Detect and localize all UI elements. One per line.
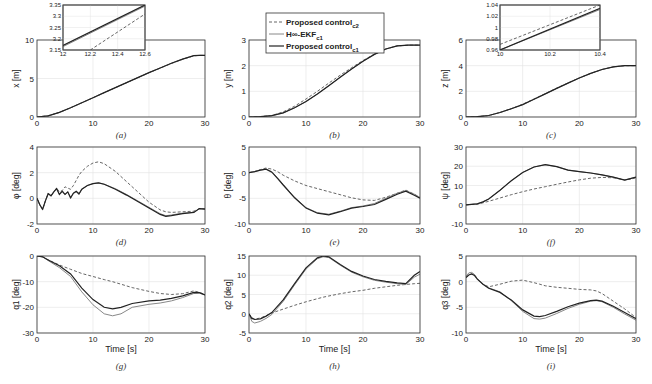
x-tick-label: 10 xyxy=(302,335,311,344)
y-tick-label: 4 xyxy=(30,143,35,152)
x-tick-label: 30 xyxy=(632,226,641,235)
x-axis-label: Time [s] xyxy=(105,344,137,354)
series-solid xyxy=(37,183,205,216)
y-tick-label: 10 xyxy=(237,271,246,280)
y-tick-label: -2 xyxy=(27,220,35,229)
subplot-caption: (i) xyxy=(547,361,556,371)
y-tick-label: -30 xyxy=(22,329,34,338)
subplot-caption: (a) xyxy=(116,130,127,140)
inset-y-tick: 1.04 xyxy=(486,2,498,8)
subplot-g: 0102030-30-20-100q1 [deg]Time [s](g) xyxy=(11,252,210,371)
x-tick-label: 20 xyxy=(145,335,154,344)
x-tick-label: 0 xyxy=(464,335,469,344)
x-axis-label: Time [s] xyxy=(319,344,351,354)
y-tick-label: 0 xyxy=(459,113,464,122)
subplot-caption: (c) xyxy=(546,130,556,140)
series-dashed xyxy=(466,177,636,204)
x-tick-label: 30 xyxy=(416,119,425,128)
y-tick-label: 5 xyxy=(242,143,247,152)
x-axis-label: Time [s] xyxy=(535,344,567,354)
x-tick-label: 30 xyxy=(632,119,641,128)
inset-y-tick: 1.02 xyxy=(486,13,498,19)
x-tick-label: 0 xyxy=(464,226,469,235)
inset-x-tick: 12.4 xyxy=(112,51,124,57)
x-tick-label: 0 xyxy=(35,226,40,235)
y-tick-label: 0 xyxy=(30,113,35,122)
inset-y-tick: 1 xyxy=(495,25,499,31)
x-tick-label: 10 xyxy=(89,226,98,235)
y-axis-label: z [m] xyxy=(440,69,450,87)
inset-x-tick: 10.4 xyxy=(594,51,606,57)
y-tick-label: 0 xyxy=(30,252,35,261)
x-tick-label: 0 xyxy=(35,119,40,128)
y-axis-label: ψ [deg] xyxy=(440,172,450,199)
inset-x-tick: 12.2 xyxy=(84,51,96,57)
subplot-caption: (b) xyxy=(329,130,340,140)
series-dashed xyxy=(37,162,205,213)
x-tick-label: 30 xyxy=(201,226,210,235)
series-thin xyxy=(37,183,205,216)
y-axis-label: x [m] xyxy=(11,69,21,87)
x-tick-label: 0 xyxy=(464,119,469,128)
x-tick-label: 10 xyxy=(518,335,527,344)
x-tick-label: 0 xyxy=(247,119,252,128)
x-tick-label: 10 xyxy=(302,226,311,235)
subplot-caption: (g) xyxy=(116,361,127,371)
x-tick-label: 20 xyxy=(575,226,584,235)
series-dashed xyxy=(466,274,636,318)
subplot-caption: (h) xyxy=(329,361,340,371)
y-tick-label: -5 xyxy=(239,194,247,203)
y-tick-label: 0 xyxy=(459,278,464,287)
subplot-h: 0102030-5051015q2 [deg]Time [s](h) xyxy=(223,252,425,371)
series-solid xyxy=(466,165,636,205)
series-thin xyxy=(37,55,205,117)
subplot-c: 01020300246z [m](c)1010.210.40.960.9811.… xyxy=(440,2,641,140)
y-tick-label: 2 xyxy=(459,87,464,96)
figure-canvas: 01020300510x [m](a)1212.212.412.63.153.2… xyxy=(0,0,652,384)
x-tick-label: 10 xyxy=(302,119,311,128)
y-axis-label: q1 [deg] xyxy=(11,279,21,310)
subplot-caption: (f) xyxy=(547,237,556,247)
inset-zoom-a: 1212.212.412.63.153.23.253.33.35 xyxy=(49,2,151,57)
y-tick-label: 30 xyxy=(454,143,463,152)
y-tick-label: 2 xyxy=(30,169,35,178)
inset-x-tick: 10.2 xyxy=(544,51,556,57)
y-axis-label: θ [deg] xyxy=(223,173,233,199)
y-tick-label: -10 xyxy=(451,329,463,338)
y-tick-label: 20 xyxy=(454,162,463,171)
series-solid xyxy=(249,256,420,320)
series-dashed xyxy=(37,55,205,117)
subplot-caption: (d) xyxy=(116,237,127,247)
inset-y-tick: 3.25 xyxy=(49,25,61,31)
series-dashed xyxy=(37,256,205,295)
axes-box xyxy=(466,256,636,333)
x-tick-label: 30 xyxy=(416,226,425,235)
inset-y-tick: 0.96 xyxy=(486,47,498,53)
legend: Proposed controlc2H∞-EKFc1Proposed contr… xyxy=(266,13,384,53)
x-tick-label: 20 xyxy=(575,335,584,344)
y-axis-label: φ [deg] xyxy=(11,172,21,199)
y-tick-label: 0 xyxy=(242,113,247,122)
y-tick-label: 10 xyxy=(454,182,463,191)
y-tick-label: 6 xyxy=(459,36,464,45)
y-tick-label: 0 xyxy=(242,169,247,178)
x-tick-label: 0 xyxy=(35,335,40,344)
y-tick-label: -10 xyxy=(234,220,246,229)
inset-y-tick: 3.3 xyxy=(53,13,62,19)
y-tick-label: 0 xyxy=(30,194,35,203)
x-tick-label: 0 xyxy=(247,226,252,235)
x-tick-label: 20 xyxy=(359,335,368,344)
y-tick-label: 3 xyxy=(242,36,247,45)
series-thin xyxy=(249,257,420,323)
axes-box xyxy=(37,147,205,224)
y-tick-label: 5 xyxy=(242,291,247,300)
y-tick-label: 15 xyxy=(237,252,246,261)
y-tick-label: -5 xyxy=(456,303,464,312)
y-tick-label: -10 xyxy=(451,220,463,229)
subplot-caption: (e) xyxy=(330,237,340,247)
y-tick-label: 5 xyxy=(459,252,464,261)
x-tick-label: 10 xyxy=(518,119,527,128)
x-tick-label: 30 xyxy=(416,335,425,344)
series-solid xyxy=(37,55,205,117)
subplot-f: 0102030-100102030ψ [deg](f) xyxy=(440,143,641,247)
